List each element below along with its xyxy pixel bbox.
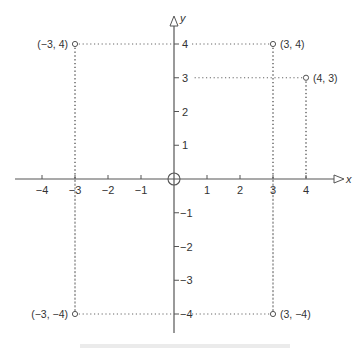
x-tick-label: −2: [102, 184, 115, 196]
point-label: (−3, 4): [37, 38, 68, 50]
y-tick-label: −2: [180, 241, 193, 253]
point-label: (3, −4): [280, 308, 311, 320]
y-tick-label: −4: [180, 308, 193, 320]
point-marker-icon: [303, 75, 308, 80]
y-tick-label: −3: [180, 274, 193, 286]
x-tick-label: −4: [36, 184, 49, 196]
point-label: (4, 3): [313, 72, 338, 84]
x-tick-label: 2: [237, 184, 243, 196]
point-marker-icon: [270, 311, 275, 316]
point-marker-icon: [270, 41, 275, 46]
x-tick-label: −3: [69, 184, 82, 196]
y-axis-label: y: [179, 12, 187, 24]
figure-caption-partial: [80, 344, 290, 348]
x-axis-arrow-icon: [334, 175, 344, 183]
point-marker-icon: [72, 41, 77, 46]
point-label: (−3, −4): [31, 308, 68, 320]
x-tick-label: 3: [270, 184, 276, 196]
y-tick-label: 1: [182, 139, 188, 151]
y-axis-arrow-icon: [170, 16, 178, 26]
x-tick-label: 1: [204, 184, 210, 196]
point-marker-icon: [72, 311, 77, 316]
y-tick-label: −1: [180, 207, 193, 219]
x-tick-label: −1: [135, 184, 148, 196]
point-label: (3, 4): [280, 38, 305, 50]
y-tick-label: 3: [182, 72, 188, 84]
coordinate-plane-chart: −4−3−2−112344321−1−2−3−4 (−3, 4)(3, 4)(4…: [0, 0, 362, 348]
x-tick-label: 4: [303, 184, 309, 196]
y-tick-label: 4: [182, 38, 188, 50]
x-axis-label: x: [345, 173, 352, 185]
y-tick-label: 2: [182, 106, 188, 118]
